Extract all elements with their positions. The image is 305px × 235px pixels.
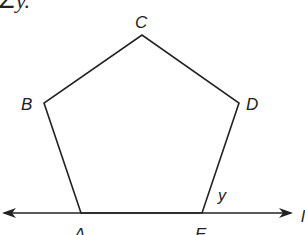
angle-y-label: y	[217, 187, 227, 204]
line-label-partial: l	[301, 207, 305, 226]
pentagon-diagram: C B D A E y l	[0, 0, 305, 235]
label-D: D	[246, 95, 258, 114]
figure-canvas: ∠y. C B D A E y l	[0, 0, 305, 235]
label-B: B	[21, 95, 32, 114]
label-E: E	[195, 225, 207, 235]
label-A: A	[73, 225, 85, 235]
label-C: C	[135, 13, 148, 32]
pentagon-ABCDE	[44, 35, 239, 213]
